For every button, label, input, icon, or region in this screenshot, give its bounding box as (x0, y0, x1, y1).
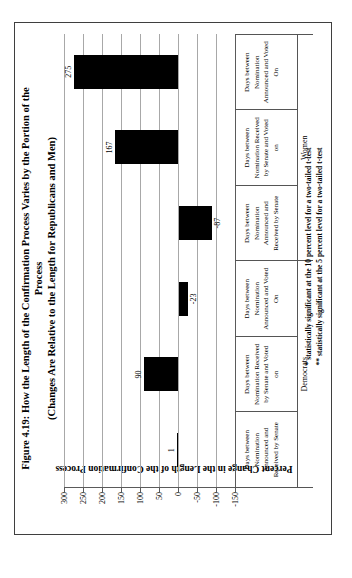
category-cell-line: Days between (243, 35, 253, 110)
category-cell-line: Days between (243, 337, 253, 412)
category-cell: Days betweenNominationAnnounced and Vote… (235, 262, 297, 338)
category-cell-line: by Senate and Voted (262, 111, 272, 186)
y-tick-label: 50 (155, 492, 164, 525)
gridline (197, 34, 198, 488)
gridline (64, 34, 65, 488)
gridline (140, 34, 141, 488)
bar-value-label: 275 (64, 57, 73, 87)
gridline (216, 34, 217, 488)
page: { "figure": { "title_line1": "Figure 4.1… (0, 0, 352, 578)
y-tick-label: 250 (79, 492, 88, 525)
y-tick-label: -150 (231, 492, 240, 525)
category-cell: Days betweenNomination Receivedby Senate… (235, 337, 297, 413)
category-cell-line: on (272, 111, 282, 186)
gridline (102, 34, 103, 488)
y-axis-line (64, 487, 236, 488)
category-cell-line: Days between (243, 111, 253, 186)
category-cell-line: Days between (243, 262, 253, 337)
chart-title-line-1: Figure 4.19: How the Length of the Confi… (19, 25, 32, 532)
y-tick-label: 300 (60, 492, 69, 525)
category-cell-line: Received by Senate (272, 186, 282, 261)
category-cell: Days betweenNomination Receivedby Senate… (235, 111, 297, 187)
gridline (83, 34, 84, 488)
y-tick-label: 150 (117, 492, 126, 525)
plot-area: 300250200150100500-50-100-150190-23-8716… (64, 34, 235, 488)
gridline (121, 34, 122, 488)
category-cell: Days betweenNominationAnnounced andRecei… (235, 186, 297, 262)
category-cell-line: by Senate and Voted (262, 337, 272, 412)
bar-value-label: 90 (134, 360, 143, 390)
y-tick-label: 200 (98, 492, 107, 525)
bar (115, 131, 178, 165)
bar-value-label: -87 (213, 208, 222, 238)
category-cell-line: Announced and Voted (262, 262, 272, 337)
bar-value-label: 167 (105, 133, 114, 163)
category-cell-line: Days between (243, 186, 253, 261)
gridline (178, 34, 179, 488)
category-cell-line: Nomination (253, 186, 263, 261)
category-cell-line: Nomination Received (253, 337, 263, 412)
y-tick-label: -50 (193, 492, 202, 525)
figure-4-19: Figure 4.19: How the Length of the Confi… (14, 22, 332, 535)
category-cell-line: Received by Senate (272, 413, 282, 488)
chart-title: Figure 4.19: How the Length of the Confi… (19, 25, 58, 532)
gridline (159, 34, 160, 488)
category-cell: Days betweenNominationAnnounced andRecei… (235, 413, 297, 489)
category-cell-line: Days between (243, 413, 253, 488)
bar-value-label: 1 (167, 435, 176, 465)
category-cell-line: Announced and (262, 413, 272, 488)
significance-footnote: * statistically significant at the 10 pe… (304, 124, 325, 389)
category-cell-line: Announced and (262, 186, 272, 261)
category-cell: Days betweenNominationAnnounced and Vote… (235, 34, 297, 111)
category-cell-line: Nomination (253, 35, 263, 110)
category-cell-line: Announced and Voted (262, 35, 272, 110)
category-cell-line: Nomination (253, 413, 263, 488)
category-cell-line: Nomination Received (253, 111, 263, 186)
bar (144, 358, 178, 392)
category-cell-line: On (272, 35, 282, 110)
bar (179, 282, 188, 316)
category-axis: Days betweenNominationAnnounced andRecei… (235, 34, 298, 488)
category-cell-line: Nomination (253, 262, 263, 337)
y-tick-label: -100 (212, 492, 221, 525)
bar-value-label: -23 (189, 284, 198, 314)
y-tick-label: 100 (136, 492, 145, 525)
category-cell-line: On (272, 262, 282, 337)
footnote-line-2: ** statistically significant at the 5 pe… (315, 124, 326, 389)
y-tick-label: 0 (174, 492, 183, 525)
bar (177, 433, 178, 467)
category-cell-line: on (272, 337, 282, 412)
chart-title-line-2: Process (32, 25, 45, 532)
bar (74, 55, 179, 89)
chart-subtitle: (Changes Are Relative to the Length for … (45, 25, 58, 532)
bar (179, 206, 212, 240)
footnote-line-1: * statistically significant at the 10 pe… (304, 124, 315, 389)
